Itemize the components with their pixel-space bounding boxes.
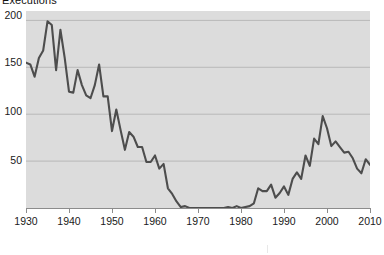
y-tick-label-150: 150 — [4, 56, 22, 68]
plot-svg — [26, 11, 370, 208]
y-tick-label-200: 200 — [4, 9, 22, 21]
chart-figure: Executions 200 150 100 50 19301940195019… — [0, 0, 384, 255]
x-tick-label-1930: 1930 — [14, 215, 37, 227]
x-tick-label-1980: 1980 — [229, 215, 252, 227]
plot-area — [26, 11, 370, 208]
x-tick-mark-1990 — [284, 208, 285, 213]
x-tick-label-2000: 2000 — [315, 215, 338, 227]
x-tick-mark-1930 — [26, 208, 27, 213]
x-tick-mark-1970 — [198, 208, 199, 213]
y-tick-label-50: 50 — [10, 154, 22, 166]
x-tick-mark-1960 — [155, 208, 156, 213]
x-tick-label-1990: 1990 — [272, 215, 295, 227]
x-tick-label-1960: 1960 — [143, 215, 166, 227]
caption-rule — [267, 245, 268, 253]
x-tick-mark-1980 — [241, 208, 242, 213]
x-tick-label-1940: 1940 — [57, 215, 80, 227]
x-tick-label-1970: 1970 — [186, 215, 209, 227]
y-tick-label-100: 100 — [4, 105, 22, 117]
x-tick-mark-2000 — [327, 208, 328, 213]
x-tick-mark-1950 — [112, 208, 113, 213]
x-tick-label-2010: 2010 — [358, 215, 381, 227]
x-tick-label-1950: 1950 — [100, 215, 123, 227]
x-tick-mark-2010 — [370, 208, 371, 213]
x-tick-mark-1940 — [69, 208, 70, 213]
